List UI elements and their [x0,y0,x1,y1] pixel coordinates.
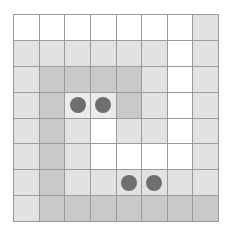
piece-dot-icon[interactable] [95,97,111,113]
board-cell-r7-c7[interactable] [193,196,218,221]
board-cell-r3-c4[interactable] [117,93,142,118]
board-cell-r4-c0[interactable] [14,119,39,144]
board-cell-r4-c1[interactable] [40,119,65,144]
board-cell-r1-c4[interactable] [117,41,142,66]
board-cell-r3-c3[interactable] [91,93,116,118]
board-cell-r3-c5[interactable] [142,93,167,118]
board-cell-r5-c2[interactable] [65,144,90,169]
board-cell-r4-c2[interactable] [65,119,90,144]
board-cell-r0-c6[interactable] [168,15,193,40]
board-cell-r0-c2[interactable] [65,15,90,40]
board-cell-r4-c6[interactable] [168,119,193,144]
board-cell-r4-c4[interactable] [117,119,142,144]
board-cell-r7-c5[interactable] [142,196,167,221]
board-cell-r2-c3[interactable] [91,67,116,92]
board-cell-r7-c2[interactable] [65,196,90,221]
board-cell-r0-c0[interactable] [14,15,39,40]
board-cell-r6-c7[interactable] [193,170,218,195]
board-cell-r2-c2[interactable] [65,67,90,92]
board-cell-r5-c5[interactable] [142,144,167,169]
board-cell-r2-c1[interactable] [40,67,65,92]
board-cell-r5-c1[interactable] [40,144,65,169]
board-cell-r2-c5[interactable] [142,67,167,92]
board-cell-r6-c0[interactable] [14,170,39,195]
board-cell-r2-c0[interactable] [14,67,39,92]
board-cell-r0-c1[interactable] [40,15,65,40]
board-cell-r2-c4[interactable] [117,67,142,92]
board-cell-r2-c7[interactable] [193,67,218,92]
board-cell-r7-c0[interactable] [14,196,39,221]
board-cell-r1-c1[interactable] [40,41,65,66]
piece-dot-icon[interactable] [146,175,162,191]
board-cell-r4-c3[interactable] [91,119,116,144]
board-cell-r7-c3[interactable] [91,196,116,221]
board-cell-r5-c3[interactable] [91,144,116,169]
board-cell-r1-c5[interactable] [142,41,167,66]
board-cell-r5-c6[interactable] [168,144,193,169]
board-cell-r6-c5[interactable] [142,170,167,195]
board-cell-r5-c7[interactable] [193,144,218,169]
board-cell-r6-c2[interactable] [65,170,90,195]
board-cell-r6-c1[interactable] [40,170,65,195]
board-cell-r3-c6[interactable] [168,93,193,118]
board-cell-r1-c0[interactable] [14,41,39,66]
board-cell-r7-c6[interactable] [168,196,193,221]
board-cell-r3-c2[interactable] [65,93,90,118]
board-cell-r2-c6[interactable] [168,67,193,92]
board-cell-r1-c6[interactable] [168,41,193,66]
board-cell-r7-c4[interactable] [117,196,142,221]
board-cell-r6-c3[interactable] [91,170,116,195]
board-cell-r7-c1[interactable] [40,196,65,221]
board-cell-r4-c5[interactable] [142,119,167,144]
piece-dot-icon[interactable] [70,97,86,113]
board-cell-r1-c3[interactable] [91,41,116,66]
board-cell-r0-c3[interactable] [91,15,116,40]
board-cell-r6-c4[interactable] [117,170,142,195]
board-cell-r4-c7[interactable] [193,119,218,144]
board-cell-r0-c4[interactable] [117,15,142,40]
board-cell-r3-c0[interactable] [14,93,39,118]
board-cell-r3-c1[interactable] [40,93,65,118]
board-cell-r6-c6[interactable] [168,170,193,195]
board-cell-r1-c7[interactable] [193,41,218,66]
board-cell-r0-c7[interactable] [193,15,218,40]
board-cell-r3-c7[interactable] [193,93,218,118]
game-board [13,14,219,222]
board-cell-r5-c4[interactable] [117,144,142,169]
board-cell-r0-c5[interactable] [142,15,167,40]
piece-dot-icon[interactable] [121,175,137,191]
board-cell-r1-c2[interactable] [65,41,90,66]
board-cell-r5-c0[interactable] [14,144,39,169]
